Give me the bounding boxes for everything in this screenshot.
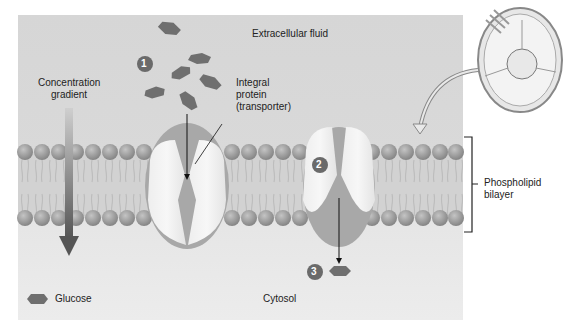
cytosol-label: Cytosol — [263, 293, 296, 305]
glucose-legend-label: Glucose — [55, 293, 92, 305]
step-number-2: 2 — [316, 159, 322, 171]
transporter-protein-open-out — [145, 114, 229, 249]
integral-protein-label-line2: protein — [236, 89, 267, 101]
membrane-illustration — [0, 0, 574, 336]
integral-protein-label-line3: (transporter) — [236, 101, 291, 113]
gradient-label-line2: gradient — [51, 89, 87, 101]
phospholipid-bilayer-label-line1: Phospholipid — [484, 177, 541, 189]
gradient-label-line1: Concentration — [38, 77, 100, 89]
phospholipid-bilayer-label-line2: bilayer — [484, 189, 513, 201]
integral-protein-label-line1: Integral — [236, 77, 269, 89]
step-number-1: 1 — [141, 58, 147, 70]
cell-inset-icon — [413, 8, 562, 134]
step-number-3: 3 — [311, 266, 317, 278]
glucose-legend-icon — [27, 294, 48, 304]
bilayer-bracket — [464, 137, 478, 232]
extracellular-fluid-label: Extracellular fluid — [252, 28, 328, 40]
transporter-protein-open-in — [303, 127, 375, 264]
